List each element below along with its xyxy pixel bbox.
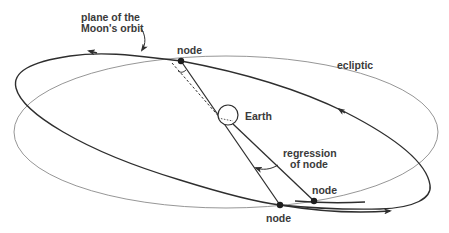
label-node-bottom: node — [266, 212, 291, 224]
label-regression-line2: of node — [290, 158, 328, 170]
node-bottom-dot — [277, 202, 283, 208]
earth-circle — [218, 105, 238, 125]
line-of-nodes — [181, 61, 280, 205]
node-shifted-dot — [311, 198, 317, 204]
label-node-top: node — [177, 44, 202, 56]
label-node-shifted: node — [312, 184, 337, 196]
label-plane-line2: Moon's orbit — [81, 22, 144, 34]
orbit-arrow-top-icon — [89, 51, 97, 53]
label-ecliptic: ecliptic — [337, 59, 373, 71]
moon-nodes-diagram: plane of the Moon's orbit node ecliptic … — [0, 0, 449, 233]
node-top-dot — [178, 58, 184, 64]
label-earth: Earth — [245, 110, 272, 122]
shifted-orbit-tail — [295, 201, 365, 203]
regression-arrow-icon — [256, 165, 278, 169]
ecliptic-ellipse — [14, 56, 438, 208]
